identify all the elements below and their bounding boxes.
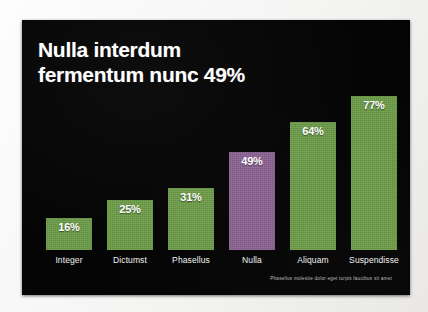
bar-phasellus[interactable]: 31% [168,188,214,250]
bar-value-nulla: 49% [229,155,275,167]
bar-value-suspendisse: 77% [351,99,397,111]
bar-dictumst[interactable]: 25% [107,200,153,250]
bar-label-suspendisse: Suspendisse [342,255,406,265]
photo-background: Nulla interdum fermentum nunc 49% 16%Int… [0,0,428,312]
slide-title-line-1: Nulla interdum [38,38,368,63]
bar-suspendisse[interactable]: 77% [351,96,397,250]
bar-label-aliquam: Aliquam [281,255,345,265]
bar-label-phasellus: Phasellus [159,255,223,265]
bar-aliquam[interactable]: 64% [290,122,336,250]
bar-label-dictumst: Dictumst [98,255,162,265]
bar-value-dictumst: 25% [107,203,153,215]
bar-label-nulla: Nulla [220,255,284,265]
bar-label-integer: Integer [37,255,101,265]
chart-footnote: Phasellus molestie dolor eget turpis fau… [270,276,392,281]
bar-value-integer: 16% [46,221,92,233]
bar-value-phasellus: 31% [168,191,214,203]
presentation-slide: Nulla interdum fermentum nunc 49% 16%Int… [22,20,410,295]
bar-nulla[interactable]: 49% [229,152,275,250]
bar-integer[interactable]: 16% [46,218,92,250]
bar-chart: 16%Integer25%Dictumst31%Phasellus49%Null… [40,80,392,250]
bar-value-aliquam: 64% [290,125,336,137]
